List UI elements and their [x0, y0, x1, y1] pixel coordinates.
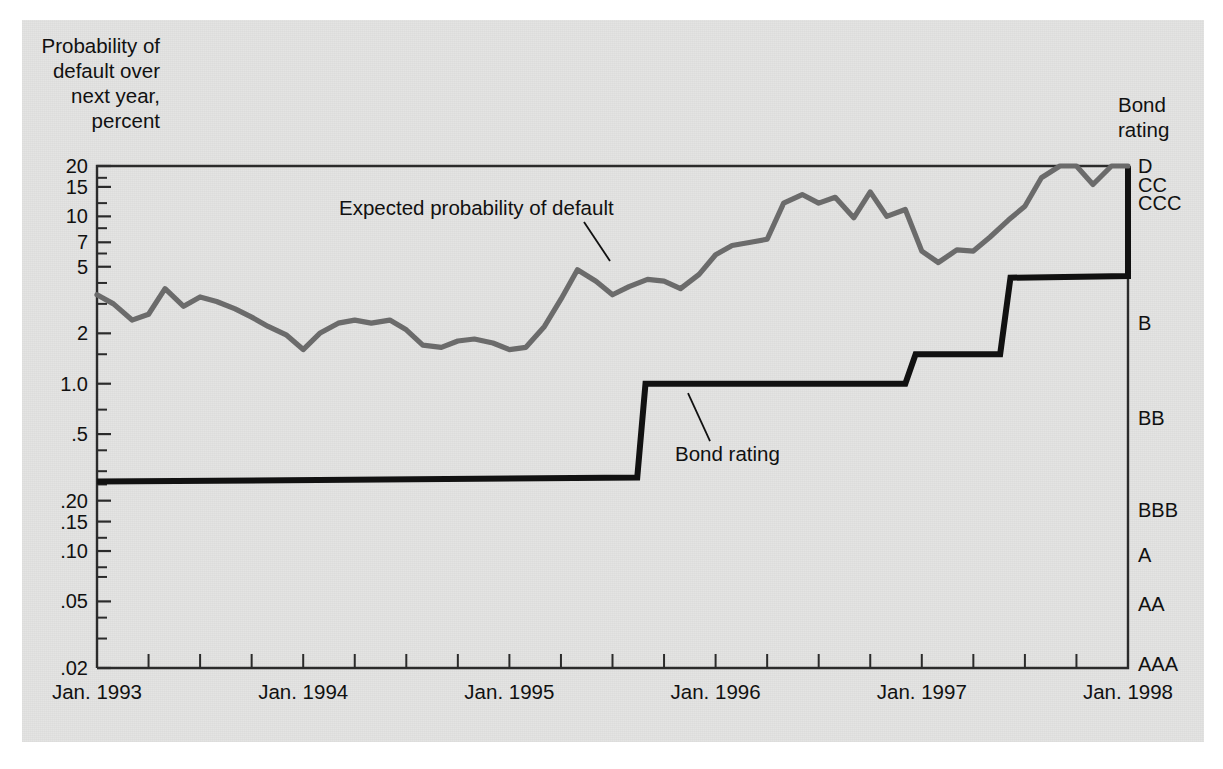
- y-tick-label: 1.0: [30, 372, 88, 395]
- bond-rating-label: AA: [1138, 593, 1165, 616]
- y-tick-label: .02: [30, 657, 88, 680]
- y-tick-label: .10: [30, 540, 88, 563]
- chart-canvas: [0, 0, 1223, 769]
- y-tick-label: 10: [30, 205, 88, 228]
- bond-rating-label: CCC: [1138, 192, 1181, 215]
- x-tick-label: Jan. 1997: [877, 680, 967, 704]
- x-tick-label: Jan. 1993: [52, 680, 142, 704]
- y-tick-label: 5: [30, 255, 88, 278]
- y-tick-label: .5: [30, 423, 88, 446]
- bond-rating-label: BBB: [1138, 499, 1178, 522]
- x-tick-label: Jan. 1996: [671, 680, 761, 704]
- x-tick-label: Jan. 1998: [1083, 680, 1173, 704]
- y-major-ticks: [97, 166, 111, 668]
- plot-frame: [97, 166, 1128, 668]
- annotation-expected-probability: Expected probability of default: [339, 196, 614, 220]
- x-tick-label: Jan. 1994: [258, 680, 348, 704]
- bond-rating-label: A: [1138, 543, 1151, 566]
- y-axis-title: Probability of default over next year, p…: [10, 33, 160, 133]
- y-tick-label: 15: [30, 175, 88, 198]
- y-tick-label: .05: [30, 590, 88, 613]
- y-tick-label: 7: [30, 231, 88, 254]
- x-ticks: [97, 654, 1128, 668]
- y-tick-label: 2: [30, 322, 88, 345]
- right-axis-title: Bond rating: [1118, 92, 1223, 142]
- bond-rating-leader-line: [688, 393, 710, 441]
- expected-probability-line: [97, 166, 1128, 350]
- y-tick-label: 20: [30, 155, 88, 178]
- expected-probability-leader-line: [584, 222, 610, 261]
- y-minor-ticks: [97, 178, 107, 639]
- y-tick-label: .15: [30, 510, 88, 533]
- x-tick-label: Jan. 1995: [464, 680, 554, 704]
- bond-rating-label: BB: [1138, 407, 1165, 430]
- y-tick-label: .20: [30, 489, 88, 512]
- bond-rating-label: AAA: [1138, 653, 1178, 676]
- annotation-bond-rating: Bond rating: [675, 442, 780, 466]
- figure-page: Probability of default over next year, p…: [0, 0, 1223, 769]
- bond-rating-label: B: [1138, 312, 1151, 335]
